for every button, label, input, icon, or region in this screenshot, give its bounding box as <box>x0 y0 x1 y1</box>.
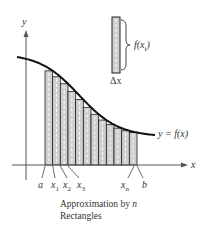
inset-rectangle <box>112 17 120 73</box>
inset-width-label: Δx <box>110 76 121 86</box>
curve-label: y = f(x) <box>158 129 188 139</box>
figure-caption: Approximation by n Rectangles <box>60 198 137 222</box>
inset-height-label: f(xi) <box>134 40 150 53</box>
y-axis-label: y <box>22 17 26 27</box>
tick-label-x3: x3 <box>77 180 85 193</box>
tick-label-x2: x2 <box>63 180 71 193</box>
tick-label-b: b <box>142 180 147 190</box>
tick-label-xn: xn <box>121 180 129 193</box>
tick-label-a: a <box>38 180 43 190</box>
approximating-rectangles <box>45 71 137 165</box>
y-axis-arrow-icon <box>24 30 29 37</box>
tick-label-x1: x1 <box>51 180 59 193</box>
x-axis-label: x <box>191 160 195 170</box>
tick-leaders <box>42 166 143 178</box>
x-axis-arrow-icon <box>181 163 188 168</box>
brace-icon <box>121 20 130 70</box>
